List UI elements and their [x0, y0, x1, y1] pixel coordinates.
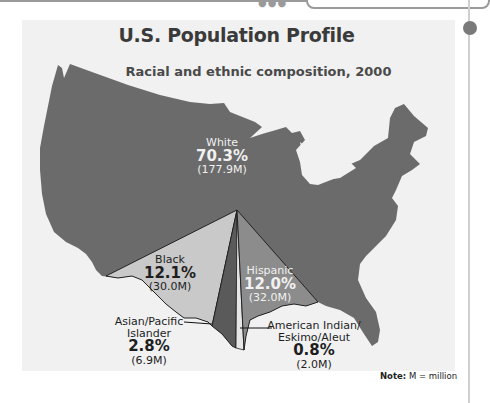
note-label: Note:	[380, 371, 406, 381]
chart-subtitle: Racial and ethnic composition, 2000	[0, 64, 473, 79]
label-amind-name-line1: American Indian/	[254, 320, 374, 332]
label-asian-pct: 2.8%	[104, 339, 194, 355]
label-black-pct: 12.1%	[130, 266, 210, 282]
label-white: White 70.3% (177.9M)	[182, 137, 262, 176]
label-asian-count: (6.9M)	[104, 355, 194, 367]
label-hispanic-count: (32.0M)	[230, 292, 310, 304]
chart-note: Note: M = million	[380, 371, 457, 381]
label-black-count: (30.0M)	[130, 281, 210, 293]
note-text: M = million	[409, 371, 457, 381]
label-amind-count: (2.0M)	[254, 359, 374, 371]
label-white-count: (177.9M)	[182, 164, 262, 176]
label-american-indian: American Indian/ Eskimo/Aleut 0.8% (2.0M…	[254, 320, 374, 370]
label-asian-name-line1: Asian/Pacific	[104, 316, 194, 328]
label-amind-pct: 0.8%	[254, 343, 374, 359]
label-black: Black 12.1% (30.0M)	[130, 254, 210, 293]
label-hispanic-pct: 12.0%	[230, 277, 310, 293]
label-hispanic: Hispanic 12.0% (32.0M)	[230, 265, 310, 304]
label-asian-pacific-islander: Asian/Pacific Islander 2.8% (6.9M)	[104, 316, 194, 366]
label-white-pct: 70.3%	[182, 149, 262, 165]
chart-title: U.S. Population Profile	[0, 24, 473, 46]
